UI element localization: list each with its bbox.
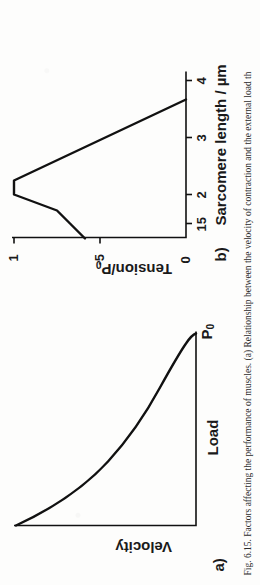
- panel-a-p0-annotation: P0: [198, 323, 216, 339]
- panel-b-y-axis-title: Tension/P0: [96, 259, 172, 277]
- panel-b-length-tension: 1 ·5 0 15 2 3 4 Tension/P0 Sarcomere len…: [0, 58, 235, 293]
- panel-b-ytick-0: 0: [178, 256, 193, 263]
- panel-a-force-velocity: Velocity Load P0 a): [0, 307, 235, 577]
- panel-b-x-axis-title: Sarcomere length / µm: [212, 64, 229, 225]
- panel-b-xtick-2: 2: [194, 191, 209, 198]
- panel-a-y-axis-title: Velocity: [115, 538, 172, 555]
- panel-a-plot: [0, 307, 235, 577]
- panel-a-x-axis-title: Load: [204, 419, 221, 455]
- panel-a-label: a): [210, 558, 227, 571]
- panel-b-ytick-1: 1: [6, 254, 21, 261]
- panel-b-label: b): [212, 247, 229, 261]
- panel-b-plot: [0, 58, 235, 293]
- panel-b-xtick-3: 3: [194, 134, 209, 141]
- figure-caption: Fig. 6.15. Factors affecting the perform…: [243, 15, 254, 575]
- panel-b-xtick-15: 15: [194, 217, 209, 231]
- panel-b-xtick-4: 4: [194, 77, 209, 84]
- figure-stage: Velocity Load P0 a) 1 ·5 0 15 2 3 4: [0, 0, 260, 585]
